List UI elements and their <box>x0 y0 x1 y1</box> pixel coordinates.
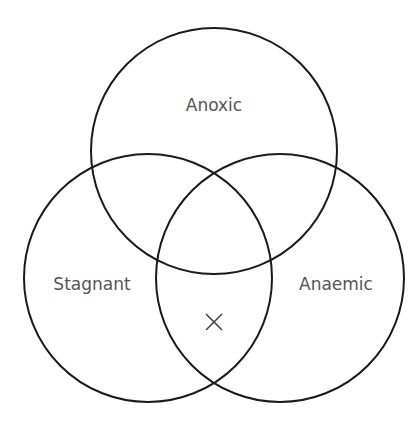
circle-anoxic <box>91 28 337 274</box>
x-mark-icon <box>206 314 222 330</box>
venn-diagram: Anoxic Stagnant Anaemic <box>0 0 420 425</box>
venn-svg: Anoxic Stagnant Anaemic <box>0 0 420 425</box>
label-anaemic: Anaemic <box>299 274 373 294</box>
label-stagnant: Stagnant <box>53 274 131 294</box>
label-anoxic: Anoxic <box>186 95 242 115</box>
